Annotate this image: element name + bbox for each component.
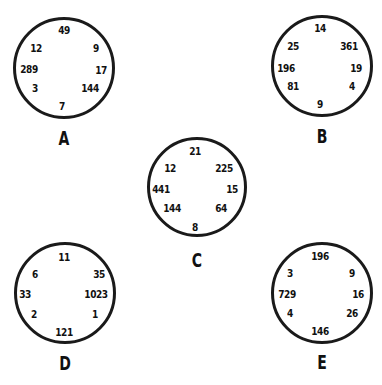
circle-number: 1023: [82, 288, 111, 301]
circle-number: 26: [345, 307, 359, 320]
circle-number: 33: [18, 288, 32, 301]
circle-number: 14: [313, 22, 327, 35]
circle-number: 6: [31, 268, 38, 281]
circle-number: 64: [214, 202, 228, 215]
circle-number: 15: [225, 183, 239, 196]
circle-number: 146: [309, 325, 330, 338]
circle-number: 361: [338, 40, 359, 53]
circle-number: 11: [57, 251, 71, 264]
circle-number: 441: [150, 183, 171, 196]
circle-number: 289: [18, 63, 39, 76]
circle-number: 35: [92, 268, 106, 281]
circle-number: 2: [30, 308, 37, 321]
circle-number: 144: [161, 202, 182, 215]
circle-number: 25: [286, 40, 300, 53]
circle-number: 9: [316, 98, 323, 111]
circle-number: 21: [188, 145, 202, 158]
circle-number: 8: [191, 221, 198, 234]
circle-label-b: B: [314, 124, 329, 148]
circle-number: 196: [275, 62, 296, 75]
circle-number: 196: [309, 250, 330, 263]
circle-number: 7: [58, 100, 65, 113]
circle-label-e: E: [315, 350, 329, 374]
circle-number: 49: [57, 24, 71, 37]
circle-number: 4: [348, 80, 355, 93]
circle-number: 9: [348, 267, 355, 280]
circle-number: 17: [94, 64, 108, 77]
circle-number: 121: [53, 326, 74, 339]
circle-number: 3: [31, 82, 38, 95]
circle-number: 9: [92, 42, 99, 55]
circle-number: 12: [163, 162, 177, 175]
circle-number: 144: [79, 82, 100, 95]
circle-number: 16: [351, 288, 365, 301]
circle-number: 4: [286, 307, 293, 320]
circle-number: 12: [29, 42, 43, 55]
circle-label-d: D: [57, 351, 74, 375]
circle-number: 1: [91, 308, 98, 321]
circle-number: 729: [276, 288, 297, 301]
circle-number: 3: [286, 267, 293, 280]
circle-label-a: A: [56, 126, 71, 150]
circle-number: 19: [349, 62, 363, 75]
circle-label-c: C: [190, 248, 205, 272]
circle-number: 225: [213, 162, 234, 175]
circle-number: 81: [286, 80, 300, 93]
